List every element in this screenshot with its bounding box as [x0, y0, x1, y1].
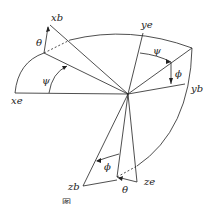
dashed-top: [44, 40, 70, 53]
label-theta-bottom: θ: [122, 184, 128, 195]
label-xe: xe: [11, 95, 23, 106]
arc-right: [137, 48, 192, 166]
label-xb: xb: [51, 12, 63, 23]
arrowhead-theta-top: [46, 26, 50, 32]
label-theta-top: θ: [36, 37, 42, 48]
line-zb-base: [83, 180, 117, 186]
label-psi-right: ψ: [153, 45, 161, 56]
axis-yb: [128, 84, 185, 94]
dashed-bottom: [117, 166, 137, 177]
axis-xb: [50, 25, 128, 94]
arc-xe-xb: [15, 53, 44, 93]
line-z-mid: [117, 94, 128, 177]
label-psi-left: ψ: [42, 75, 50, 86]
label-zb: zb: [67, 181, 80, 192]
label-ye: ye: [140, 19, 153, 30]
label-yb: yb: [190, 83, 203, 94]
label-ze: ze: [143, 176, 155, 187]
arc-top: [70, 34, 192, 48]
figure-caption: 图 …: [62, 198, 83, 204]
euler-angle-diagram: xb ye yb xe zb ze θ ψ ψ ϕ ϕ θ 图 …: [0, 0, 211, 204]
axis-zb: [83, 94, 128, 186]
arrowhead-theta-bottom: [118, 176, 123, 181]
label-phi-right: ϕ: [175, 68, 182, 79]
label-phi-bottom: ϕ: [104, 161, 111, 172]
axis-xe: [15, 93, 128, 94]
psi-arc-left: [49, 66, 67, 93]
arrowhead-phi-right: [169, 78, 173, 84]
